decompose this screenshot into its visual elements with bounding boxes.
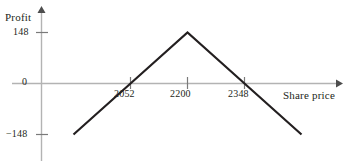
x-tick-label-2348: 2348 (228, 89, 249, 99)
x-tick-label-2200: 2200 (170, 89, 191, 99)
y-tick-label-148: 148 (13, 27, 29, 37)
arrow-right-icon (336, 80, 343, 88)
profit-share-price-chart: Profit Share price 148 0 −148 2052 2200 … (0, 0, 348, 163)
x-tick-label-2052: 2052 (114, 89, 135, 99)
arrow-up-icon (38, 6, 46, 13)
y-tick-label-neg148: −148 (6, 129, 27, 139)
chart-plot-area (0, 0, 348, 163)
y-axis-title: Profit (5, 12, 31, 23)
x-axis-title: Share price (283, 90, 335, 101)
y-tick-label-0: 0 (22, 77, 27, 87)
